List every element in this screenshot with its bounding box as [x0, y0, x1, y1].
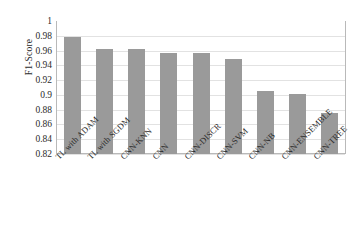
y-axis-tick-label: 0.96	[35, 46, 52, 56]
y-axis-tick-labels: 10.980.960.940.920.90.880.860.840.82	[14, 21, 54, 154]
y-axis-tick-label: 0.84	[35, 134, 52, 144]
y-axis-tick-label: 0.86	[35, 119, 52, 129]
y-axis-tick-label: 0.9	[40, 90, 52, 100]
figure-bar-chart-f1-score: F1-Score 10.980.960.940.920.90.880.860.8…	[0, 0, 358, 236]
y-axis-tick-label: 0.82	[35, 149, 52, 159]
y-axis-tick-label: 1	[47, 16, 52, 26]
y-axis-tick-label: 0.92	[35, 75, 52, 85]
y-axis-tick-label: 0.98	[35, 31, 52, 41]
y-axis-tick-label: 0.94	[35, 60, 52, 70]
bar	[160, 53, 177, 154]
x-axis-tick-labels: TL with ADAMTL with SGDMCNN-KNNCNNCNN-DI…	[56, 155, 346, 233]
y-axis-tick-label: 0.88	[35, 105, 52, 115]
